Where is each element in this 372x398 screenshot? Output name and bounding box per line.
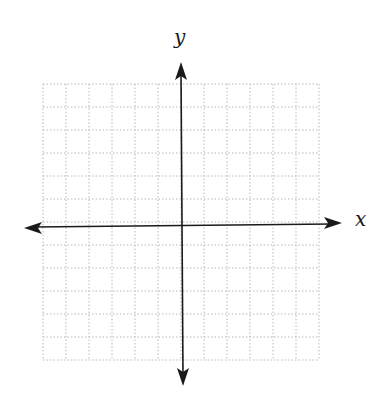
x-axis-label: x	[355, 209, 366, 229]
coordinate-plane	[0, 0, 372, 398]
x-axis-left-arrow-icon	[24, 222, 42, 234]
x-axis-right-arrow-icon	[324, 217, 342, 229]
x-axis	[34, 224, 332, 227]
y-axis-label: y	[174, 27, 185, 47]
